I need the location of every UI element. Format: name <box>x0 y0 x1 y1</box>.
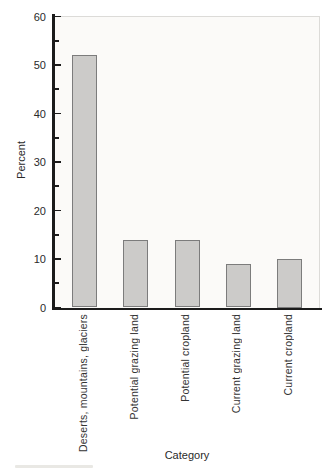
y-tick-label: 10 <box>0 253 46 265</box>
x-axis-title: Category <box>54 449 320 461</box>
y-minor-tick <box>55 88 59 90</box>
category-label: Current cropland <box>282 314 294 395</box>
y-minor-tick <box>55 185 59 187</box>
y-minor-tick <box>55 234 59 236</box>
y-tick-label: 30 <box>0 156 46 168</box>
x-axis-line <box>52 308 322 311</box>
caption-remnant <box>15 465 93 468</box>
category-label: Potential grazing land <box>128 314 140 419</box>
bar <box>226 264 251 308</box>
category-label: Current grazing land <box>230 314 242 413</box>
category-label: Potential cropland <box>179 314 191 402</box>
bar <box>175 240 200 308</box>
y-minor-tick <box>55 40 59 42</box>
y-tick-label: 40 <box>0 108 46 120</box>
y-major-tick <box>55 64 61 66</box>
bar <box>123 240 148 308</box>
y-minor-tick <box>55 137 59 139</box>
y-tick-label: 60 <box>0 11 46 23</box>
y-tick-label: 0 <box>0 302 46 314</box>
y-axis-line <box>52 14 55 310</box>
bar-chart-figure: 0102030405060Deserts, mountains, glacier… <box>0 0 335 472</box>
category-label: Deserts, mountains, glaciers <box>77 314 89 452</box>
y-tick-label: 20 <box>0 205 46 217</box>
bar <box>277 259 302 308</box>
y-major-tick <box>55 258 61 260</box>
y-major-tick <box>55 210 61 212</box>
y-major-tick <box>55 16 61 18</box>
y-major-tick <box>55 161 61 163</box>
y-major-tick <box>55 113 61 115</box>
y-minor-tick <box>55 282 59 284</box>
bar <box>72 55 97 307</box>
y-tick-label: 50 <box>0 59 46 71</box>
